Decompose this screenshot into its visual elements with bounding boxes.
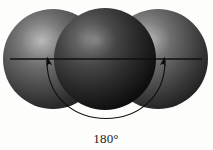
angle-label: 180° xyxy=(93,131,119,146)
figure-canvas: 180° xyxy=(0,0,213,150)
molecular-geometry-figure: 180° xyxy=(0,0,213,150)
